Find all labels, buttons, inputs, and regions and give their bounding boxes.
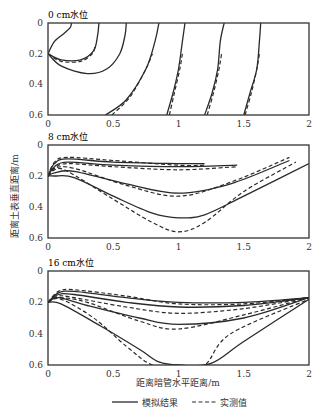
y-tick-label: 0.2 <box>29 171 43 181</box>
y-tick-label: 0.2 <box>29 297 43 307</box>
simulated-curve <box>48 299 309 366</box>
legend-label-simulated: 模拟结果 <box>142 397 178 408</box>
panel-0: 0 cm水位00.20.40.600.511.52 <box>29 9 312 129</box>
curves <box>48 23 261 115</box>
y-tick-label: 0.6 <box>29 233 44 243</box>
simulated-curve <box>167 23 185 115</box>
measured-curve <box>48 162 296 232</box>
y-tick-label: 0.2 <box>29 49 43 59</box>
simulated-curve <box>48 23 72 54</box>
curves <box>48 289 309 367</box>
y-tick-label: 0 <box>37 266 43 276</box>
figure: 0 cm水位00.20.40.600.511.528 cm水位00.20.40.… <box>0 0 330 420</box>
x-tick-label: 1.5 <box>237 242 252 252</box>
x-tick-label: 1 <box>176 242 182 252</box>
measured-curve <box>48 46 95 62</box>
curves <box>48 157 309 231</box>
panel-title: 8 cm水位 <box>48 131 88 142</box>
y-tick-label: 0.4 <box>29 329 44 339</box>
panel-2: 16 cm水位00.20.40.600.511.52 <box>29 257 312 379</box>
simulated-curve <box>205 23 225 115</box>
y-tick-label: 0 <box>37 18 43 28</box>
x-tick-label: 2 <box>306 369 312 379</box>
panel-title: 0 cm水位 <box>48 9 88 20</box>
x-tick-label: 0 <box>45 119 51 129</box>
measured-curve <box>48 164 237 176</box>
x-tick-label: 1.5 <box>237 369 252 379</box>
legend-label-measured: 实测值 <box>220 397 247 408</box>
panel-1: 8 cm水位00.20.40.600.511.52 <box>29 131 312 252</box>
plot-frame <box>48 145 309 238</box>
measured-curve <box>169 54 182 115</box>
simulated-curve <box>244 23 261 115</box>
x-tick-label: 0 <box>45 369 51 379</box>
simulated-curve <box>48 164 309 218</box>
simulated-curve <box>48 161 289 194</box>
y-axis-label: 距离土表垂直距离/m <box>9 154 20 238</box>
x-tick-label: 0.5 <box>106 119 121 129</box>
x-tick-label: 1 <box>176 119 182 129</box>
x-tick-label: 0.5 <box>106 369 121 379</box>
y-tick-label: 0 <box>37 140 43 150</box>
measured-curve <box>112 54 152 115</box>
simulated-curve <box>105 23 158 115</box>
x-tick-label: 2 <box>306 242 312 252</box>
y-tick-label: 0.4 <box>29 79 44 89</box>
panel-title: 16 cm水位 <box>48 257 94 268</box>
simulated-curve <box>48 23 126 74</box>
x-tick-label: 0 <box>45 242 51 252</box>
x-tick-label: 2 <box>306 119 312 129</box>
panels-group: 0 cm水位00.20.40.600.511.528 cm水位00.20.40.… <box>29 9 312 379</box>
y-tick-label: 0.4 <box>29 202 44 212</box>
y-tick-label: 0.6 <box>29 110 44 120</box>
x-axis-label: 距离暗管水平距离/m <box>136 377 220 388</box>
x-tick-label: 1.5 <box>237 119 252 129</box>
legend: 模拟结果 实测值 <box>112 397 247 408</box>
x-tick-label: 0.5 <box>106 242 121 252</box>
y-tick-label: 0.6 <box>29 360 44 370</box>
